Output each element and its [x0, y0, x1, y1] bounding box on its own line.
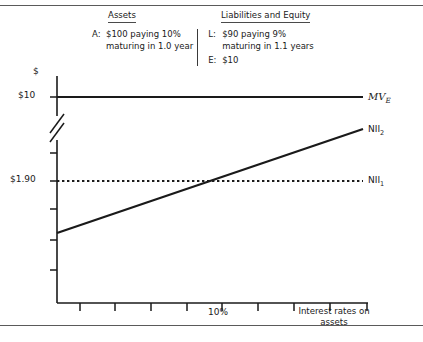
chart-plot-area: [0, 0, 423, 342]
axis-break-slash-2: [50, 123, 64, 142]
axis-break-slash-1: [50, 114, 64, 133]
x-tick-label-ten-percent: 10%: [208, 307, 228, 317]
series-label-nii1-subscript: 1: [380, 180, 384, 188]
series-label-mve: MVE: [368, 91, 391, 105]
figure-canvas: Assets Liabilities and Equity A: $100 pa…: [0, 0, 423, 342]
series-label-nii2-text: NII: [368, 124, 380, 134]
series-label-nii1-text: NII: [368, 175, 380, 185]
series-label-mve-subscript: E: [385, 96, 390, 105]
x-axis-title: Interest rates on assets: [292, 306, 376, 327]
y-tick-label-190: $1.90: [10, 174, 36, 184]
y-tick-label-10: $10: [18, 90, 35, 100]
series-label-nii2-subscript: 2: [380, 129, 384, 137]
series-label-mve-text: MV: [368, 91, 385, 102]
series-label-nii2: NII2: [368, 124, 384, 137]
series-label-nii1: NII1: [368, 175, 384, 188]
y-axis-title: $: [33, 66, 39, 76]
